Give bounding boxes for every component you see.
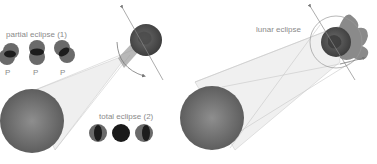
lunar-eclipse-label: lunar eclipse <box>256 25 301 34</box>
p-label-3: P <box>60 68 65 77</box>
p-label-1: P <box>5 68 10 77</box>
total-eclipse-phases <box>89 124 153 142</box>
total-eclipse-label: total eclipse (2) <box>99 112 154 121</box>
p-label-2: P <box>33 68 38 77</box>
sun-sphere-right <box>180 86 244 150</box>
eclipse-diagram: partial eclipse (1) P P P total eclipse … <box>0 0 377 164</box>
solar-eclipse-panel: partial eclipse (1) P P P total eclipse … <box>0 7 163 153</box>
sun-sphere <box>0 89 64 153</box>
partial-eclipse-label: partial eclipse (1) <box>6 30 67 39</box>
lunar-eclipse-panel: lunar eclipse <box>180 6 368 150</box>
partial-eclipse-phases <box>0 40 75 65</box>
